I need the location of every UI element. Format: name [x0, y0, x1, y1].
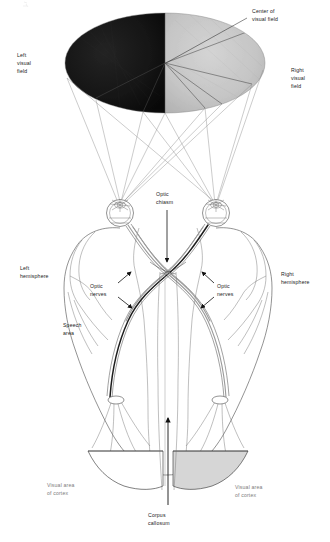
- left-eye: [107, 199, 134, 227]
- left-visual-cortex-area: [88, 451, 163, 489]
- center-of-visual-field-label: Center of visual field: [252, 8, 278, 22]
- visual-pathway-diagram: Center of visual field Left visual field…: [0, 0, 330, 542]
- right-visual-field-half: [165, 13, 265, 113]
- optic-chiasm-label: Optic chiasm: [156, 191, 173, 205]
- left-hemisphere-label: Left hemisphere: [20, 265, 49, 279]
- scan-artifact: [23, 2, 28, 7]
- diagram-canvas: Center of visual field Left visual field…: [0, 0, 330, 542]
- corpus-callosum-label: Corpus callosum: [148, 512, 170, 526]
- visual-cortex-right-label: Visual area of cortex: [235, 484, 264, 498]
- right-eye: [203, 199, 230, 227]
- left-visual-field-label: Left visual field: [17, 52, 33, 74]
- right-hemisphere-label: Right hemisphere: [281, 271, 310, 285]
- visual-field-ellipse: [65, 13, 265, 113]
- visual-cortex-left-label: Visual area of cortex: [47, 482, 76, 496]
- right-visual-field-label: Right visual field: [291, 67, 307, 89]
